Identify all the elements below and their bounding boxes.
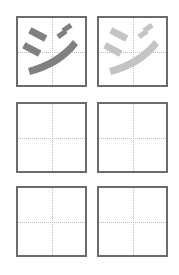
katakana-ji-trace-glyph bbox=[99, 18, 166, 85]
trace-character-box[interactable] bbox=[97, 16, 168, 87]
model-character-box bbox=[16, 16, 87, 87]
horizontal-guide bbox=[99, 138, 166, 139]
blank-practice-box[interactable] bbox=[16, 102, 87, 173]
blank-practice-box[interactable] bbox=[97, 102, 168, 173]
blank-practice-box[interactable] bbox=[16, 186, 87, 257]
horizontal-guide bbox=[18, 222, 85, 223]
blank-practice-box[interactable] bbox=[97, 186, 168, 257]
horizontal-guide bbox=[18, 138, 85, 139]
katakana-ji-glyph bbox=[18, 18, 85, 85]
horizontal-guide bbox=[99, 222, 166, 223]
